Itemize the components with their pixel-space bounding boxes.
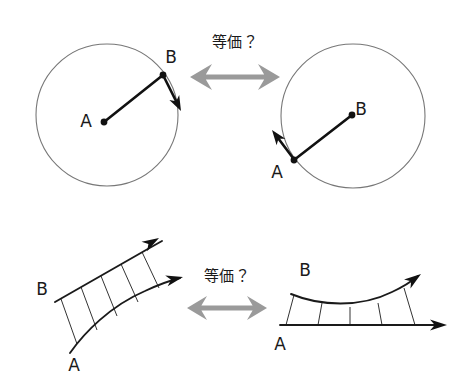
- ladder-label-b: B: [299, 260, 311, 280]
- point-group: AB: [80, 47, 177, 131]
- double-headed-arrow-top: [190, 64, 280, 90]
- point-label-a: A: [271, 162, 283, 182]
- ladder-rung-1: [286, 295, 294, 325]
- point-label-b: B: [165, 47, 177, 67]
- ladder-rung-5: [142, 252, 159, 288]
- point-label-a: A: [80, 111, 92, 131]
- double-headed-arrow-icon: [190, 64, 280, 90]
- radius-vector-a-to-b: [104, 75, 163, 122]
- top-right-circle-group: AB: [271, 44, 425, 188]
- upper-curved-rail: [291, 276, 418, 304]
- upper-rail: [55, 241, 162, 302]
- top-left-circle-group: AB: [36, 44, 181, 186]
- figure-root: AB 等価？ AB BA 等価？ BA: [0, 0, 465, 384]
- ladder-label-a: A: [274, 334, 286, 354]
- ladder-label-b: B: [36, 279, 48, 299]
- ladder-rung-5: [404, 288, 415, 325]
- equivalence-label-top: 等価？: [212, 33, 259, 51]
- ladder-label-a: A: [68, 355, 80, 375]
- point-dot-a: [101, 119, 108, 126]
- diagram-canvas: AB 等価？ AB BA 等価？ BA: [0, 0, 465, 384]
- bottom-left-ladder-group: BA: [36, 238, 183, 375]
- top-row-group: AB 等価？ AB: [36, 33, 425, 189]
- equivalence-label-bottom: 等価？: [204, 267, 251, 285]
- ladder-rung-2: [318, 303, 322, 325]
- ladder-rung-4: [378, 303, 382, 325]
- tangent-vector-at-b: [164, 77, 177, 103]
- point-dot-b: [160, 72, 167, 79]
- radius-vector-a-to-b: [294, 115, 352, 160]
- double-headed-arrow-bottom: [187, 296, 267, 320]
- ladder-rung-1: [61, 299, 77, 344]
- lower-rail: [70, 278, 180, 353]
- point-dot-a: [291, 157, 298, 164]
- point-label-b: B: [355, 99, 367, 119]
- upper-curved-rail-head-icon: [404, 274, 421, 288]
- bottom-right-ladder-group: BA: [274, 260, 447, 354]
- circle-outline: [36, 44, 178, 186]
- bottom-row-group: BA 等価？ BA: [36, 238, 447, 375]
- ladder-rung-3: [101, 276, 117, 316]
- double-headed-arrow-icon: [187, 296, 267, 320]
